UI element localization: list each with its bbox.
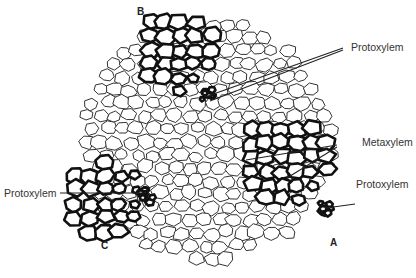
label-metaxylem: Metaxylem	[362, 137, 413, 148]
bundle-letter-b: B	[137, 7, 144, 17]
label-protoxylem-left: Protoxylem	[4, 188, 57, 199]
label-protoxylem-top: Protoxylem	[351, 42, 404, 53]
bundle-letter-c: C	[101, 241, 108, 251]
label-protoxylem-right: Protoxylem	[356, 179, 409, 190]
bundle-letter-a: A	[330, 238, 337, 248]
xylem-bundle-b	[139, 14, 221, 102]
